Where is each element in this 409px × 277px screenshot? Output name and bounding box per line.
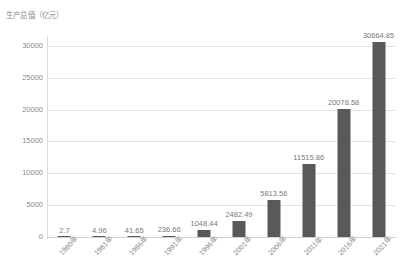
bar-chart: 生产总值（亿元） 050001000015000200002500030000 … — [0, 0, 409, 277]
x-axis-tick-label: 2016年 — [326, 242, 361, 252]
bar-slot: 11515.86 — [291, 38, 326, 237]
bar-value-label: 20078.58 — [328, 98, 359, 107]
y-axis-tick-label: 20000 — [0, 105, 43, 114]
bar-value-label: 2.7 — [59, 226, 69, 235]
y-axis-tick-label: 15000 — [0, 136, 43, 145]
y-axis-tick-label: 0 — [0, 232, 43, 241]
bar-slot: 20078.58 — [326, 38, 361, 237]
bar[interactable] — [232, 221, 245, 237]
bar-value-label: 4.96 — [92, 226, 107, 235]
bar-value-label: 11515.86 — [293, 153, 324, 162]
x-axis-tick-label: 1986年 — [117, 242, 152, 252]
bar-slot: 2482.49 — [222, 38, 257, 237]
bar-slot: 41.65 — [117, 38, 152, 237]
bar-value-label: 5813.56 — [260, 189, 287, 198]
bar-value-label: 236.66 — [158, 225, 181, 234]
bar-slot: 2.7 — [47, 38, 82, 237]
bar[interactable] — [337, 109, 350, 237]
bar-series: 2.74.9641.65236.661048.442482.495813.561… — [47, 38, 396, 237]
bar[interactable] — [372, 42, 385, 237]
bar-value-label: 30664.85 — [363, 31, 394, 40]
bar-slot: 1048.44 — [187, 38, 222, 237]
y-axis-tick-label: 10000 — [0, 168, 43, 177]
x-axis-tick-label: 2021年 — [361, 242, 396, 252]
bar-slot: 30664.85 — [361, 38, 396, 237]
x-axis-tick-label: 1980年 — [47, 242, 82, 252]
bar-slot: 4.96 — [82, 38, 117, 237]
x-axis-tick-label: 1981年 — [82, 242, 117, 252]
y-axis-tick-label: 5000 — [0, 200, 43, 209]
x-axis-tick-label: 2001年 — [222, 242, 257, 252]
chart-axis-title: 生产总值（亿元） — [6, 9, 64, 20]
x-axis-tick-labels: 1980年1981年1986年1991年1996年2001年2006年2011年… — [47, 238, 396, 277]
bar-value-label: 2482.49 — [225, 210, 252, 219]
y-axis-tick-label: 25000 — [0, 73, 43, 82]
x-axis-tick-label: 2006年 — [256, 242, 291, 252]
bar-slot: 236.66 — [152, 38, 187, 237]
bar[interactable] — [302, 164, 315, 237]
bar[interactable] — [267, 200, 280, 237]
bar-value-label: 1048.44 — [190, 219, 217, 228]
x-axis-tick-label: 2011年 — [291, 242, 326, 252]
bar-slot: 5813.56 — [256, 38, 291, 237]
x-axis-tick-label: 1996年 — [187, 242, 222, 252]
y-axis-tick-label: 30000 — [0, 41, 43, 50]
bar-value-label: 41.65 — [125, 226, 144, 235]
x-axis-tick-label: 1991年 — [152, 242, 187, 252]
